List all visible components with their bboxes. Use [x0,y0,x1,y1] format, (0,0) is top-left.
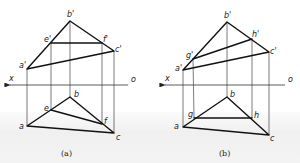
top-view-a [27,97,114,133]
label-b-prime-b: b' [224,11,231,20]
label-a-b: a [174,122,179,131]
label-b-b: b [230,90,235,99]
label-f-a: f [104,117,108,126]
label-e-prime-a: e' [44,35,51,44]
label-b-prime-a: b' [67,10,74,19]
figure-a: x o b' e' f' c' a' b e f a c (a) [8,10,136,158]
label-g-prime-b: g' [186,51,193,60]
label-e-a: e [44,104,49,113]
label-h-prime-b: h' [252,30,259,39]
label-a-prime-b: a' [175,64,182,73]
label-c-prime-a: c' [115,45,122,54]
label-a-prime-a: a' [19,61,26,70]
diagram-canvas: x o b' e' f' c' a' b e f a c (a) [0,0,300,163]
caption-a: (a) [61,149,72,158]
label-c-prime-b: c' [270,47,277,56]
axis-o-label-a: o [131,75,136,84]
figure-b: x o b' h' c' g' a' b g h a c (b) [164,11,293,158]
caption-b: (b) [219,149,230,158]
label-a-a: a [19,122,24,131]
label-h-b: h [254,111,259,120]
axis-x-label-b: x [164,74,170,83]
label-c-b: c [270,134,275,143]
label-g-b: g [188,110,193,119]
projection-lines-a [27,21,114,133]
axis-x-label-a: x [8,74,14,83]
projection-diagram: x o b' e' f' c' a' b e f a c (a) [0,0,300,163]
front-view-a [27,21,114,69]
axis-o-label-b: o [288,75,293,84]
label-c-a: c [116,133,121,142]
label-b-a: b [74,90,79,99]
label-f-prime-a: f' [103,35,108,44]
